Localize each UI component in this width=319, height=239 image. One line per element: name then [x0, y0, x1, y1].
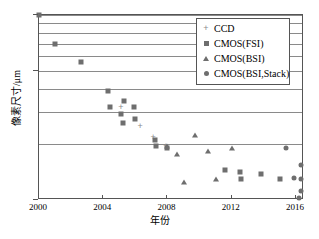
data-point: +	[150, 133, 157, 140]
data-point	[284, 146, 289, 151]
x-tick-mark	[38, 195, 39, 199]
legend: +CCDCMOS(FSI)CMOS(BSI)CMOS(BSI,Stack)	[196, 18, 290, 85]
legend-item-label: CMOS(BSI)	[212, 53, 265, 64]
gridline	[39, 15, 302, 16]
legend-item: CMOS(BSI)	[200, 51, 286, 66]
legend-item-label: CCD	[212, 23, 235, 34]
data-point: +	[117, 103, 124, 110]
y-tick-mark	[33, 70, 38, 71]
legend-item: CMOS(BSI,Stack)	[200, 66, 286, 81]
data-point	[223, 168, 228, 173]
data-point	[122, 98, 127, 103]
data-point	[133, 116, 138, 121]
data-point	[120, 121, 125, 126]
legend-item: CMOS(FSI)	[200, 36, 286, 51]
gridline	[39, 112, 302, 113]
data-point	[107, 104, 112, 109]
data-point	[298, 162, 303, 167]
y-axis-title: 像素尺寸/μm	[11, 38, 23, 158]
x-tick-mark	[166, 195, 167, 199]
y-tick-mark	[33, 199, 38, 200]
data-point	[181, 180, 187, 185]
circle-marker-icon	[200, 71, 212, 76]
data-point	[131, 104, 136, 109]
data-point	[258, 172, 263, 177]
data-point	[297, 195, 302, 200]
legend-item: +CCD	[200, 21, 286, 36]
square-marker-icon	[200, 41, 212, 46]
data-point	[292, 175, 297, 180]
x-tick-mark	[231, 195, 232, 199]
data-point	[152, 138, 157, 143]
data-point	[213, 176, 219, 181]
gridline	[39, 144, 302, 145]
plus-marker-icon: +	[200, 25, 212, 32]
x-tick-mark	[102, 195, 103, 199]
data-point	[237, 169, 242, 174]
data-point	[174, 151, 180, 156]
y-tick-mark	[33, 14, 38, 15]
chart-figure: ++++ 1510 20002004200820122016 年份 像素尺寸/μ…	[0, 0, 319, 239]
x-tick-label: 2004	[93, 202, 111, 212]
legend-item-label: CMOS(FSI)	[212, 38, 263, 49]
x-axis-title: 年份	[0, 215, 319, 227]
gridline	[39, 89, 302, 90]
x-tick-mark	[295, 195, 296, 199]
data-point	[229, 146, 235, 151]
x-tick-label: 2016	[286, 202, 304, 212]
data-point	[205, 148, 211, 153]
x-tick-label: 2012	[222, 202, 240, 212]
data-point	[78, 59, 83, 64]
data-point	[239, 176, 244, 181]
x-tick-label: 2008	[157, 202, 175, 212]
data-point	[192, 132, 198, 137]
data-point	[298, 176, 303, 181]
x-tick-label: 2000	[29, 202, 47, 212]
data-point	[298, 188, 303, 193]
legend-item-label: CMOS(BSI,Stack)	[212, 68, 289, 79]
data-point	[165, 146, 170, 151]
data-point	[277, 176, 282, 181]
data-point: +	[137, 123, 144, 130]
triangle-marker-icon	[200, 56, 212, 61]
